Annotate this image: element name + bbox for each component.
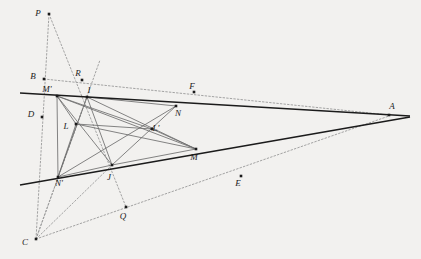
point-marker-I bbox=[86, 96, 89, 99]
point-label-A: A bbox=[388, 101, 395, 111]
point-marker-R bbox=[81, 79, 84, 82]
point-label-C: C bbox=[22, 237, 29, 247]
point-label-Lp: L' bbox=[152, 123, 161, 133]
point-marker-A bbox=[388, 114, 391, 117]
geometry-diagram: PBRM'IFNADLL'MJN'EQC bbox=[0, 0, 421, 259]
point-marker-P bbox=[48, 13, 51, 16]
point-marker-D bbox=[41, 116, 44, 119]
point-marker-E bbox=[240, 175, 243, 178]
point-label-P: P bbox=[34, 8, 41, 18]
point-label-Np: N' bbox=[54, 178, 64, 188]
point-marker-Mp bbox=[56, 95, 59, 98]
point-marker-Q bbox=[125, 206, 128, 209]
point-marker-B bbox=[43, 78, 46, 81]
point-marker-M bbox=[195, 148, 198, 151]
point-label-D: D bbox=[27, 109, 35, 119]
point-label-N: N bbox=[174, 108, 182, 118]
point-label-B: B bbox=[30, 71, 36, 81]
point-marker-L bbox=[75, 123, 78, 126]
point-label-Q: Q bbox=[120, 211, 127, 221]
point-marker-J bbox=[111, 164, 114, 167]
point-label-R: R bbox=[74, 68, 81, 78]
point-label-M: M bbox=[189, 152, 198, 162]
point-marker-C bbox=[35, 238, 38, 241]
point-label-L: L bbox=[62, 121, 68, 131]
point-label-Mp: M' bbox=[41, 84, 52, 94]
point-marker-N bbox=[175, 105, 178, 108]
point-label-F: F bbox=[188, 81, 195, 91]
point-label-E: E bbox=[234, 178, 241, 188]
point-marker-F bbox=[193, 91, 196, 94]
